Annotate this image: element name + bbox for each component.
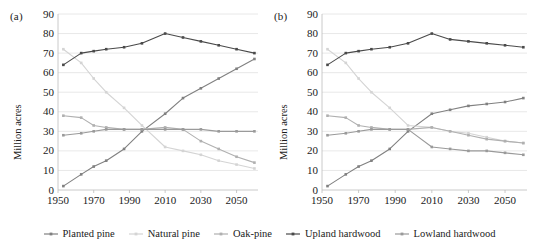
series-marker [123,46,126,49]
x-axis-tick-label: 1970 [342,195,376,206]
series-marker [235,67,238,70]
y-axis-tick-label: 20 [296,145,318,156]
series-marker [217,148,220,151]
series-marker [92,124,95,127]
series-marker [123,148,126,151]
series-marker [504,44,507,47]
series-marker [200,140,203,143]
series-marker [235,163,238,166]
chart-panel-a: (a) Million acres 0102030405060708090195… [0,0,268,215]
series-marker [357,77,360,80]
series-marker [326,114,329,117]
series-marker [253,58,256,61]
series-marker [326,134,329,137]
series-marker [431,146,434,149]
legend-swatch-icon [129,224,143,242]
series-marker [522,97,525,100]
series-marker [326,64,329,67]
y-axis-tick-label: 40 [296,106,318,117]
series-marker [407,42,410,45]
legend-swatch-icon [44,224,58,242]
y-axis-tick-label: 20 [32,145,54,156]
series-marker [370,159,373,162]
x-axis-tick-label: 2030 [451,195,485,206]
series-marker [431,112,434,115]
series-marker [522,154,525,157]
series-marker [141,128,144,131]
legend-label: Natural pine [148,228,200,239]
legend-swatch-icon [395,224,409,242]
series-line [63,129,254,135]
series-marker [407,128,410,131]
series-marker [105,48,108,51]
series-line [63,59,254,186]
series-marker [370,128,373,131]
series-marker [141,124,144,127]
series-line [63,116,254,163]
y-axis-tick-label: 70 [296,48,318,59]
series-marker [92,77,95,80]
series-marker [105,128,108,131]
series-marker [326,48,329,51]
series-marker [217,130,220,133]
series-marker [80,116,83,119]
y-axis-tick-label: 50 [296,87,318,98]
series-marker [182,36,185,39]
series-marker [105,159,108,162]
legend-item[interactable]: Lowland hardwood [395,224,496,242]
series-marker [485,42,488,45]
series-marker [326,185,329,188]
series-marker [80,132,83,135]
series-marker [485,150,488,153]
series-marker [357,165,360,168]
series-marker [235,130,238,133]
series-marker [357,124,360,127]
x-axis-tick-label: 1950 [305,195,339,206]
series-marker [62,48,65,51]
series-marker [431,126,434,129]
series-marker [344,173,347,176]
series-marker [92,130,95,133]
series-marker [253,130,256,133]
y-axis-tick-label: 80 [296,28,318,39]
series-marker [431,32,434,35]
series-marker [200,128,203,131]
y-axis-tick-label: 90 [296,9,318,20]
series-marker [80,62,83,65]
series-marker [388,128,391,131]
legend-item[interactable]: Oak-pine [214,224,272,242]
series-marker [182,128,185,131]
series-marker [504,140,507,143]
series-marker [164,112,167,115]
legend-item[interactable]: Upland hardwood [286,224,381,242]
x-axis-tick-label: 2030 [184,195,218,206]
x-axis-tick-label: 2050 [488,195,522,206]
y-axis-tick-label: 30 [32,126,54,137]
figure-root: (a) Million acres 0102030405060708090195… [0,0,539,250]
series-marker [141,42,144,45]
series-line [63,34,254,65]
y-axis-tick-label: 60 [32,67,54,78]
series-marker [92,165,95,168]
series-marker [235,155,238,158]
legend-label: Upland hardwood [305,228,381,239]
series-marker [522,142,525,145]
series-line [327,34,523,65]
series-marker [449,148,452,151]
y-axis-tick-label: 30 [296,126,318,137]
series-marker [217,44,220,47]
series-marker [467,40,470,43]
chart-legend: Planted pineNatural pineOak-pineUpland h… [0,222,539,244]
y-axis-tick-label: 80 [32,28,54,39]
legend-swatch-icon [286,224,300,242]
series-marker [357,130,360,133]
legend-item[interactable]: Natural pine [129,224,200,242]
series-marker [200,87,203,90]
x-axis-tick-label: 1990 [112,195,146,206]
x-axis-tick-label: 1990 [378,195,412,206]
series-marker [370,91,373,94]
series-marker [449,38,452,41]
series-marker [217,159,220,162]
legend-item[interactable]: Planted pine [44,224,115,242]
x-axis-tick-label: 1970 [77,195,111,206]
